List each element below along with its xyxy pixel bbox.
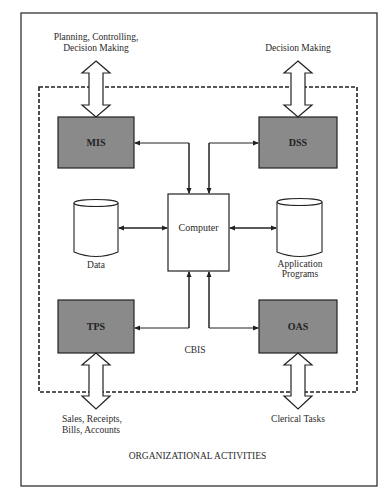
bottom-right-label: Clerical Tasks <box>258 414 338 425</box>
bottom-left-label-line1: Sales, Receipts, <box>62 414 142 425</box>
app-programs-label-line1: Application <box>265 259 335 269</box>
oas-connector <box>209 272 258 328</box>
top-right-label: Decision Making <box>248 43 348 54</box>
organizational-activities-label: ORGANIZATIONAL ACTIVITIES <box>100 451 295 462</box>
data-label: Data <box>71 260 121 271</box>
application-programs-cylinder-icon <box>277 199 322 257</box>
app-programs-label-line2: Programs <box>265 269 335 279</box>
tps-double-arrow-icon <box>82 353 110 409</box>
dss-double-arrow-icon <box>284 61 312 117</box>
top-left-label-line1: Planning, Controlling, <box>46 32 146 43</box>
oas-label: OAS <box>259 321 337 332</box>
computer-label: Computer <box>168 222 229 233</box>
oas-double-arrow-icon <box>284 353 312 409</box>
cbis-label: CBIS <box>175 345 215 356</box>
dss-connector <box>209 143 258 193</box>
app-programs-label: Application Programs <box>265 259 335 279</box>
dss-label: DSS <box>259 137 337 148</box>
mis-connector <box>135 143 189 193</box>
top-left-label-line2: Decision Making <box>46 43 146 54</box>
bottom-left-label: Sales, Receipts, Bills, Accounts <box>62 414 142 436</box>
mis-label: MIS <box>58 137 134 148</box>
top-left-label: Planning, Controlling, Decision Making <box>46 32 146 54</box>
data-cylinder-icon <box>74 200 118 257</box>
mis-double-arrow-icon <box>82 61 110 117</box>
bottom-left-label-line2: Bills, Accounts <box>62 425 142 436</box>
tps-label: TPS <box>58 321 134 332</box>
tps-connector <box>135 272 189 328</box>
